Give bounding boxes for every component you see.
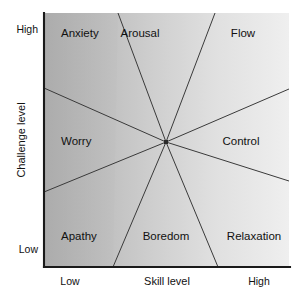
y-axis-labels: High Low Challenge level (15, 23, 38, 255)
y-axis-tick-high: High (16, 23, 38, 35)
sector-label-anxiety: Anxiety (61, 27, 99, 39)
center-convergence-dot (164, 140, 168, 144)
diagram-canvas: Anxiety Arousal Flow Worry Control Apath… (0, 0, 306, 303)
sector-label-boredom: Boredom (143, 230, 190, 242)
x-axis-tick-low: Low (60, 275, 80, 287)
sector-label-worry: Worry (61, 135, 92, 147)
sector-label-arousal: Arousal (121, 27, 160, 39)
sector-label-control: Control (222, 135, 259, 147)
y-axis-title: Challenge level (15, 102, 27, 177)
x-axis-labels: Low Skill level High (60, 275, 270, 287)
sector-label-apathy: Apathy (61, 230, 97, 242)
x-axis-title: Skill level (144, 275, 190, 287)
x-axis-tick-high: High (248, 275, 270, 287)
y-axis-tick-low: Low (19, 243, 39, 255)
sector-label-flow: Flow (231, 27, 256, 39)
flow-model-diagram: Anxiety Arousal Flow Worry Control Apath… (0, 0, 306, 303)
sector-label-relaxation: Relaxation (227, 230, 281, 242)
